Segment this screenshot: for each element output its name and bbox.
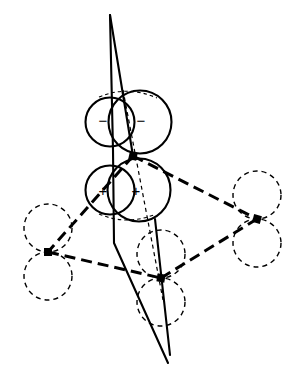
positive-sign-left: + xyxy=(99,182,108,199)
bond-bottom-right xyxy=(161,219,257,278)
negative-sign-left: − xyxy=(99,112,108,129)
left-atom-orbital-lower xyxy=(24,252,72,300)
negative-sign-right: − xyxy=(137,112,146,129)
bond-left-bottom xyxy=(48,252,161,278)
left-atom-orbital-upper xyxy=(24,204,72,252)
diagram-canvas: − − + + xyxy=(0,0,298,379)
orbital-diagram-figure: − − + + xyxy=(0,0,298,379)
right-atom-orbital-lower xyxy=(233,219,281,267)
left-atom-marker xyxy=(44,248,52,256)
bottom-atom-orbital-lower xyxy=(137,278,185,326)
bottom-atom-marker xyxy=(156,273,165,282)
central-atom-marker xyxy=(128,151,137,160)
positive-sign-right: + xyxy=(132,182,141,199)
unit-cell-right-vertical xyxy=(155,219,170,355)
